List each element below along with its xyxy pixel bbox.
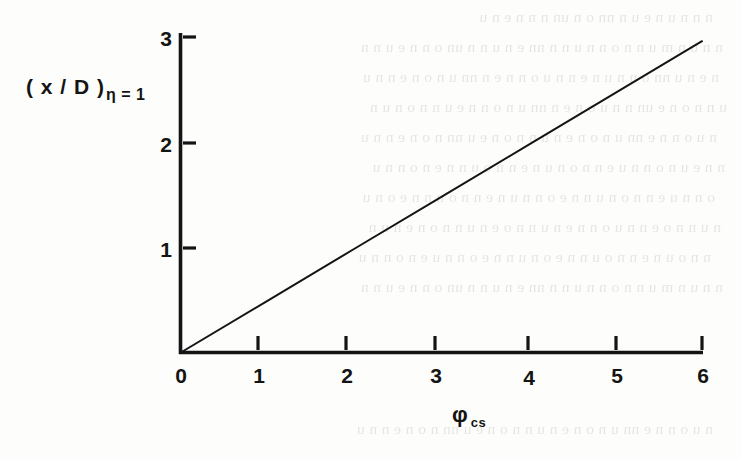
x-tick-label-3: 3 — [430, 365, 442, 386]
x-tick-label-6: 6 — [697, 365, 709, 386]
figure-container: n n n u n e u n nn o n un n n n e n u n … — [0, 0, 741, 459]
x-tick-label-1: 1 — [253, 365, 265, 386]
plot-area: 0 1 2 3 4 5 6 1 2 3 ( x / D )η = 1 φcs — [0, 0, 741, 459]
y-axis-title-main: ( x / D ) — [26, 75, 105, 98]
y-tick-label-2: 2 — [150, 134, 172, 155]
data-series-line — [180, 41, 702, 353]
x-tick-label-5: 5 — [611, 365, 623, 386]
y-axis-ticks — [183, 37, 196, 248]
y-tick-label-3: 3 — [150, 28, 172, 49]
y-axis-title-subscript: η = 1 — [106, 86, 145, 103]
x-tick-label-0: 0 — [175, 365, 187, 386]
x-axis-title: φcs — [452, 404, 483, 426]
x-axis-title-subscript: cs — [471, 415, 486, 430]
y-axis-title: ( x / D )η = 1 — [26, 76, 144, 97]
x-tick-label-4: 4 — [523, 367, 535, 388]
x-axis-ticks — [258, 336, 702, 350]
x-axis-title-main: φ — [452, 402, 468, 427]
y-tick-label-1: 1 — [150, 239, 172, 260]
x-tick-label-2: 2 — [341, 365, 353, 386]
plot-svg — [0, 0, 741, 459]
